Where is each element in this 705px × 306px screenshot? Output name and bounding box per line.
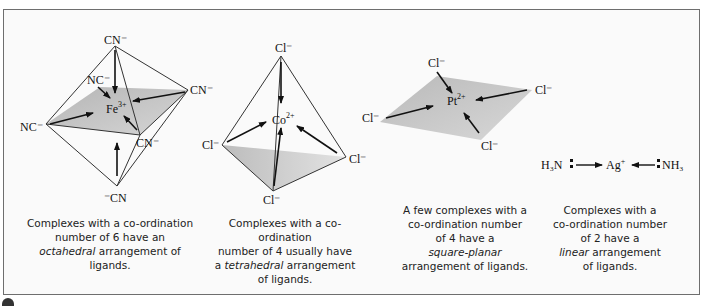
caption-line: of ligands. [545, 259, 675, 273]
ligand-label-left: Cl⁻ [202, 138, 219, 152]
caption-tetrahedral: Complexes with a co-ordination number of… [205, 216, 365, 286]
ligand-label-right: Cl⁻ [349, 152, 366, 166]
caption-line: Complexes with a co-ordination [10, 216, 210, 230]
ligand-label-bottom: Cl⁻ [263, 193, 280, 207]
caption-octahedral: Complexes with a co-ordination number of… [10, 216, 210, 272]
caption-geometry-term: linear [559, 246, 589, 258]
caption-text: arrangement of [95, 245, 180, 257]
lone-pair-right [657, 159, 660, 168]
tetrahedral-diagram: Cl⁻ Cl⁻ Cl⁻ Cl⁻ Co2+ [202, 41, 366, 207]
ligand-label-right: Cl⁻ [535, 83, 552, 97]
base-face [222, 145, 346, 191]
ligand-label-left: Cl⁻ [362, 111, 379, 125]
caption-geometry-term: square-planar [428, 246, 501, 258]
ligand-label-left: NC⁻ [20, 120, 43, 134]
ligand-label-top: CN⁻ [104, 33, 127, 47]
square-planar-diagram: Cl⁻ Cl⁻ Cl⁻ Cl⁻ Pt2+ [362, 56, 552, 153]
caption-text: arrangement [589, 246, 661, 258]
lone-pair-left [570, 159, 573, 168]
metal-center-ag: Ag+ [606, 157, 626, 172]
caption-line: of ligands. [205, 272, 365, 286]
caption-line: arrangement of ligands. [398, 259, 532, 273]
caption-linear: Complexes with a co-ordination number of… [545, 203, 675, 273]
caption-line: of 4 have a [398, 231, 532, 245]
caption-geometry-term: octahedral [39, 245, 95, 257]
figure-number-tab [2, 298, 14, 306]
ligand-label-top: Cl⁻ [428, 56, 445, 70]
ligand-label-front: CN⁻ [136, 136, 159, 150]
caption-square-planar: A few complexes with a co-ordination num… [398, 203, 532, 273]
ligand-label-left: H₃N [541, 158, 563, 172]
caption-text: arrangement [283, 259, 355, 271]
metal-center-co: Co2+ [272, 111, 295, 127]
caption-line: ligands. [10, 258, 210, 272]
ligand-label-upper-left: NC⁻ [87, 73, 110, 87]
caption-line: co-ordination number [545, 217, 675, 231]
caption-line: Complexes with a [545, 203, 675, 217]
ligand-label-right: NH₃ [662, 158, 684, 172]
ligand-label-right: CN⁻ [190, 83, 213, 97]
octahedral-diagram: CN⁻ NC⁻ CN⁻ NC⁻ CN⁻ ⁻CN Fe3+ [20, 33, 213, 205]
caption-line: octahedral arrangement of [10, 244, 210, 258]
caption-line: a tetrahedral arrangement [205, 258, 365, 272]
linear-diagram: H₃N Ag+ NH₃ [541, 157, 684, 172]
caption-geometry-term: tetrahedral [224, 259, 283, 271]
caption-line: Complexes with a co-ordination [205, 216, 365, 244]
caption-line: linear arrangement [545, 245, 675, 259]
caption-line: A few complexes with a [398, 203, 532, 217]
ligand-label-bottom: ⁻CN [104, 191, 127, 205]
caption-line: co-ordination number [398, 217, 532, 231]
ligand-label-bottom: Cl⁻ [481, 139, 498, 153]
caption-line: square-planar [398, 245, 532, 259]
caption-line: number of 4 usually have [205, 244, 365, 258]
square-plane [380, 76, 532, 140]
ligand-label-top: Cl⁻ [275, 41, 292, 55]
caption-line: of 2 have a [545, 231, 675, 245]
caption-line: number of 6 have an [10, 230, 210, 244]
